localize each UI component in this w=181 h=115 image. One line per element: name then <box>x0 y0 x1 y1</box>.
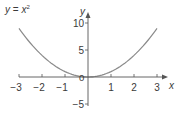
x-tick-label: −2 <box>33 82 45 93</box>
y-axis-arrow-icon <box>86 12 91 18</box>
x-tick-label: −3 <box>10 82 22 93</box>
origin-label: 0 <box>79 72 84 83</box>
y-ticks: 105−5 <box>73 18 88 110</box>
parabola-chart: −3−2−1123 105−5 x y 0 <box>0 0 181 115</box>
y-tick-label: 5 <box>78 45 84 56</box>
x-tick-label: 2 <box>131 82 137 93</box>
y-tick-label: 10 <box>73 18 85 29</box>
y-axis-label: y <box>79 6 86 17</box>
x-tick-label: 1 <box>108 82 114 93</box>
x-axis-arrow-icon <box>162 75 168 80</box>
x-tick-label: 3 <box>154 82 160 93</box>
x-tick-label: −1 <box>56 82 68 93</box>
x-axis-label: x <box>168 80 175 91</box>
y-tick-label: −5 <box>73 99 85 110</box>
